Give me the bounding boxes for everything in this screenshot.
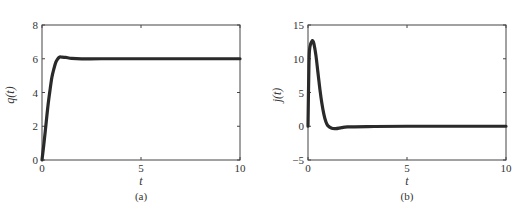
x-tick-label: 0 (39, 162, 45, 174)
figure: 051002468 q(t) t (a) 0510−5051015 j(t) t… (0, 0, 524, 221)
j-series-line (308, 41, 506, 129)
q-series-line (42, 57, 240, 160)
plot-frame (42, 25, 240, 160)
y-tick-label: 8 (33, 19, 39, 31)
y-axis-label: j(t) (270, 88, 284, 105)
panel-a-chart: 051002468 q(t) t (a) (3, 19, 246, 203)
y-axis-label: q(t) (3, 86, 17, 103)
x-tick-label: 5 (138, 162, 144, 174)
x-axis-label: t (405, 174, 409, 188)
panel-b-chart: 0510−5051015 j(t) t (b) (270, 19, 512, 203)
y-tick-label: 0 (33, 154, 39, 166)
axis-ticks: 051002468 (33, 19, 247, 174)
x-tick-label: 10 (501, 162, 513, 174)
panel-caption: (b) (401, 190, 414, 203)
x-axis-label: t (139, 174, 143, 188)
y-tick-label: 5 (299, 87, 305, 99)
axis-ticks: 0510−5051015 (292, 19, 512, 174)
y-tick-label: 0 (299, 120, 305, 132)
y-tick-label: 6 (33, 53, 39, 65)
panel-caption: (a) (135, 190, 148, 203)
y-tick-label: 15 (293, 19, 305, 31)
y-tick-label: 10 (293, 53, 305, 65)
y-tick-label: 2 (33, 120, 39, 132)
y-tick-label: 4 (33, 87, 39, 99)
y-tick-label: −5 (292, 154, 304, 166)
x-tick-label: 5 (404, 162, 410, 174)
plot-frame (308, 25, 506, 160)
x-tick-label: 0 (305, 162, 311, 174)
x-tick-label: 10 (235, 162, 247, 174)
